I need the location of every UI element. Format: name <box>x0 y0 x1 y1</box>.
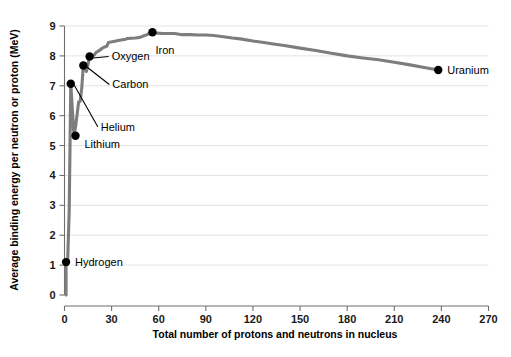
data-point-hydrogen <box>62 258 70 266</box>
data-point-oxygen <box>85 52 93 60</box>
y-tick-label-0: 0 <box>49 289 55 301</box>
chart-canvas: 0123456789 0306090120150180210240270 Hyd… <box>0 0 511 357</box>
x-axis-title: Total number of protons and neutrons in … <box>153 328 398 340</box>
binding-energy-chart-figure: 0123456789 0306090120150180210240270 Hyd… <box>0 0 511 357</box>
point-label-uranium: Uranium <box>447 64 489 76</box>
x-tick-label-240: 240 <box>432 313 450 325</box>
point-label-iron: Iron <box>155 44 174 56</box>
point-label-oxygen: Oxygen <box>112 50 150 62</box>
y-tick-label-9: 9 <box>49 20 55 32</box>
chart-background <box>0 0 511 357</box>
x-tick-label-150: 150 <box>291 313 309 325</box>
point-label-helium: Helium <box>101 121 135 133</box>
data-point-lithium <box>71 131 79 139</box>
x-tick-label-0: 0 <box>61 313 67 325</box>
x-tick-label-270: 270 <box>479 313 497 325</box>
data-point-uranium <box>434 66 442 74</box>
y-tick-label-1: 1 <box>49 259 55 271</box>
x-tick-label-180: 180 <box>338 313 356 325</box>
y-tick-label-4: 4 <box>49 169 56 181</box>
x-tick-label-210: 210 <box>385 313 403 325</box>
x-tick-label-90: 90 <box>200 313 212 325</box>
y-tick-label-5: 5 <box>49 140 55 152</box>
x-tick-label-30: 30 <box>105 313 117 325</box>
data-point-carbon <box>79 61 87 69</box>
y-axis-title: Average binding energy per neutron or pr… <box>8 29 20 291</box>
y-tick-label-2: 2 <box>49 229 55 241</box>
y-tick-label-8: 8 <box>49 50 55 62</box>
point-label-lithium: Lithium <box>84 138 119 150</box>
data-point-helium <box>67 79 75 87</box>
data-point-iron <box>148 28 156 36</box>
y-tick-label-7: 7 <box>49 80 55 92</box>
x-tick-label-60: 60 <box>153 313 165 325</box>
y-tick-label-6: 6 <box>49 110 55 122</box>
x-tick-label-120: 120 <box>244 313 262 325</box>
point-label-hydrogen: Hydrogen <box>75 256 123 268</box>
y-tick-label-3: 3 <box>49 199 55 211</box>
point-label-carbon: Carbon <box>112 78 148 90</box>
